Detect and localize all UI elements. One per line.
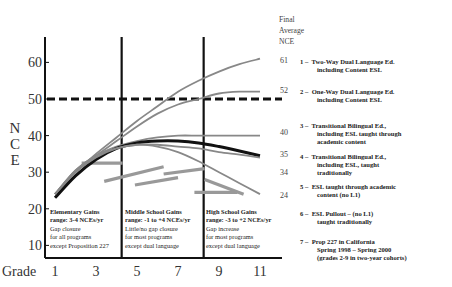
- annotation-line: except dual language: [206, 242, 286, 250]
- y-tick-label: 60: [28, 55, 42, 70]
- annotation-subtitle: range: -1 to +4 NCEs/yr: [125, 216, 203, 224]
- annotation-subtitle: range: -3 to +2 NCEs/yr: [206, 216, 286, 224]
- x-tick-label: 7: [175, 264, 182, 279]
- annotation-line: Gap increase: [206, 225, 286, 233]
- final-header-line: Final: [279, 14, 304, 25]
- legend-num: 5 –: [300, 183, 310, 191]
- y-tick-label: 30: [28, 165, 42, 180]
- legend-text: Transitional Bilingual Ed.,: [312, 122, 387, 129]
- final-average-header: Final Average NCE: [279, 14, 304, 47]
- annotation-elementary: Elementary Gains range: 3-4 NCEs/yr Gap …: [50, 208, 122, 250]
- legend-item-2: 2 – One-Way Dual Language Ed. including …: [300, 88, 394, 104]
- legend-text: including ESL taught through: [300, 130, 401, 138]
- prop227-segment-2: [104, 167, 163, 182]
- legend-text: Two-Way Dual Language Ed.: [312, 58, 395, 65]
- final-value-6: 24: [280, 191, 288, 200]
- legend-item-1: 1 – Two-Way Dual Language Ed. including …: [300, 58, 395, 74]
- final-value-2: 52: [280, 86, 288, 95]
- annotation-title: High School Gains: [206, 208, 286, 216]
- annotation-line: for all programs: [50, 233, 122, 241]
- x-tick-label: 5: [134, 264, 141, 279]
- annotation-middle-school: Middle School Gains range: -1 to +4 NCEs…: [125, 208, 203, 250]
- final-value-5: 34: [280, 168, 288, 177]
- prop227-segment-3: [135, 178, 178, 185]
- annotation-line: Gap closure: [50, 225, 122, 233]
- legend-num: 1 –: [300, 58, 310, 66]
- legend-text: including Content ESL: [300, 66, 395, 74]
- legend-num: 3 –: [300, 122, 310, 130]
- y-axis-label-letter: E: [10, 152, 19, 168]
- annotation-line: except Proposition 227: [50, 242, 122, 250]
- legend-item-4: 4 – Transitional Bilingual Ed., includin…: [300, 153, 386, 178]
- legend-num: 6 –: [300, 210, 310, 218]
- series-line-1: [55, 59, 260, 194]
- final-header-line: Average: [279, 25, 304, 36]
- legend-item-3: 3 – Transitional Bilingual Ed., includin…: [300, 122, 401, 147]
- y-axis-label-letter: N: [10, 120, 21, 136]
- annotation-line: Little/no gap closure: [125, 225, 203, 233]
- legend-num: 4 –: [300, 153, 310, 161]
- legend-text: taught traditionally: [300, 218, 373, 226]
- annotation-title: Elementary Gains: [50, 208, 122, 216]
- final-header-line: NCE: [279, 36, 304, 47]
- legend-text: content (no L1): [300, 191, 396, 199]
- legend-text: including ESL, taught: [300, 161, 386, 169]
- x-tick-label: 11: [253, 264, 266, 279]
- legend-num: 2 –: [300, 88, 310, 96]
- annotation-title: Middle School Gains: [125, 208, 203, 216]
- legend-text: ESL taught through academic: [312, 183, 396, 190]
- x-tick-label: 3: [93, 264, 100, 279]
- legend-text: academic content: [300, 138, 401, 146]
- y-tick-label: 40: [28, 129, 42, 144]
- legend-text: Transitional Bilingual Ed.,: [312, 153, 387, 160]
- x-axis-label: Grade: [2, 264, 36, 279]
- legend-text: Prop 227 in California: [312, 238, 375, 245]
- legend-text: (grades 2-9 in two-year cohorts): [300, 254, 407, 262]
- legend-text: traditionally: [300, 169, 386, 177]
- prop227-segment-4: [164, 169, 205, 174]
- annotation-line: for most programs: [206, 233, 286, 241]
- legend-text: including Content ESL: [300, 96, 394, 104]
- legend-item-6: 6 – ESL Pullout – (no L1) taught traditi…: [300, 210, 373, 226]
- legend-text: ESL Pullout – (no L1): [312, 210, 374, 217]
- annotation-line: for most programs: [125, 233, 203, 241]
- final-value-1: 61: [280, 56, 288, 65]
- legend-text: Spring 1998 – Spring 2000: [300, 246, 407, 254]
- y-axis-label-letter: C: [10, 136, 20, 152]
- y-tick-label: 10: [28, 238, 42, 253]
- final-value-3: 40: [280, 128, 288, 137]
- annotation-line: except dual language: [125, 242, 203, 250]
- legend-num: 7 –: [300, 238, 310, 246]
- x-tick-label: 9: [216, 264, 223, 279]
- y-tick-label: 50: [28, 92, 42, 107]
- annotation-high-school: High School Gains range: -3 to +2 NCEs/y…: [206, 208, 286, 250]
- annotation-subtitle: range: 3-4 NCEs/yr: [50, 216, 122, 224]
- legend-item-5: 5 – ESL taught through academic content …: [300, 183, 396, 199]
- final-value-4: 35: [280, 150, 288, 159]
- legend-item-7: 7 – Prop 227 in California Spring 1998 –…: [300, 238, 407, 263]
- legend-text: One-Way Dual Language Ed.: [312, 88, 395, 95]
- x-tick-label: 1: [52, 264, 59, 279]
- y-tick-label: 20: [28, 202, 42, 217]
